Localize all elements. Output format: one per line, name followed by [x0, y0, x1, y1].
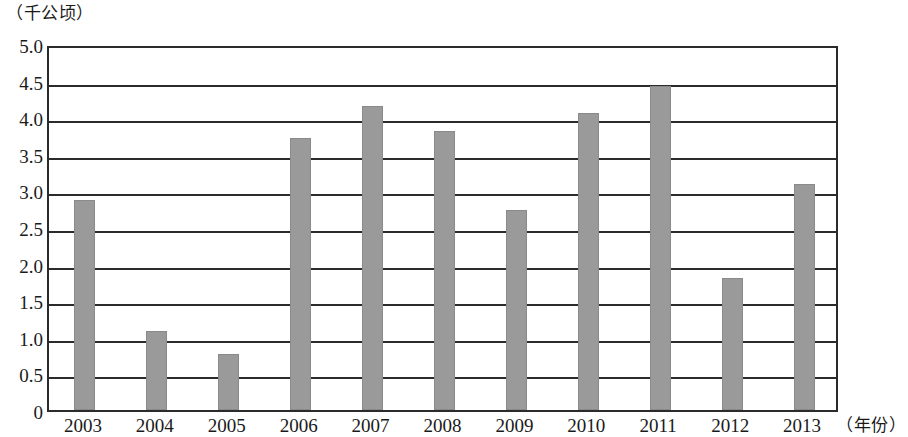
x-axis-tick-label: 2006: [280, 414, 318, 437]
bar: [578, 113, 599, 410]
x-axis-tick-label: 2013: [783, 414, 821, 437]
x-axis-tick-label: 2010: [567, 414, 605, 437]
bar: [506, 210, 527, 410]
y-axis-tick-labels: 00.51.01.52.02.53.03.54.04.55.0: [0, 0, 43, 437]
x-axis-title: （年份）: [836, 414, 906, 437]
bar: [146, 331, 167, 410]
x-axis-tick-label: 2007: [352, 414, 390, 437]
x-axis-tick-label: 2012: [711, 414, 749, 437]
x-axis-tick-label: 2005: [208, 414, 246, 437]
y-axis-tick-label: 4.0: [0, 110, 43, 129]
bars-group: [49, 48, 836, 410]
plot-area: [47, 46, 838, 412]
y-axis-tick-label: 2.0: [0, 256, 43, 275]
x-axis-tick-label: 2004: [136, 414, 174, 437]
y-axis-tick-label: 1.0: [0, 329, 43, 348]
y-axis-tick-label: 3.5: [0, 146, 43, 165]
y-axis-tick-label: 1.5: [0, 293, 43, 312]
bar: [722, 278, 743, 410]
bar: [650, 86, 671, 410]
x-axis-tick-label: 2003: [64, 414, 102, 437]
bar-chart: （千公顷） 00.51.01.52.02.53.03.54.04.55.0 20…: [0, 0, 908, 437]
y-axis-tick-label: 2.5: [0, 220, 43, 239]
bar: [794, 184, 815, 410]
x-axis-tick-label: 2008: [424, 414, 462, 437]
x-axis-tick-label: 2011: [640, 414, 677, 437]
bar: [74, 200, 95, 410]
y-axis-tick-label: 5.0: [0, 37, 43, 56]
bar: [434, 131, 455, 410]
x-axis-tick-labels: 2003200420052006200720082009201020112012…: [0, 414, 908, 437]
bar: [362, 106, 383, 411]
y-axis-tick-label: 3.0: [0, 183, 43, 202]
bar: [218, 354, 239, 410]
y-axis-tick-label: 0.5: [0, 366, 43, 385]
bar: [290, 138, 311, 410]
x-axis-tick-label: 2009: [495, 414, 533, 437]
y-axis-tick-label: 4.5: [0, 73, 43, 92]
